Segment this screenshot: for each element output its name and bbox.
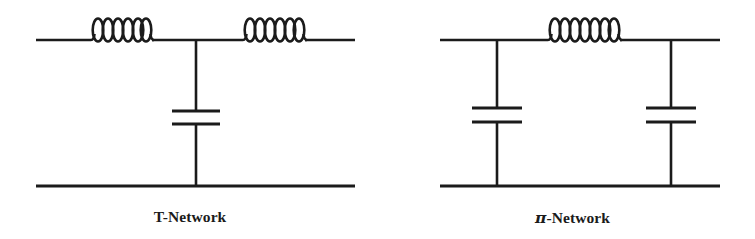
pi-network-caption-text: -Network [546, 209, 610, 226]
figure-root: T-Network π-Network [0, 0, 755, 239]
pi-network-caption: π-Network [390, 208, 755, 227]
schematic-canvas [0, 0, 755, 239]
t-network-caption: T-Network [0, 208, 380, 226]
pi-symbol: π [535, 208, 546, 227]
